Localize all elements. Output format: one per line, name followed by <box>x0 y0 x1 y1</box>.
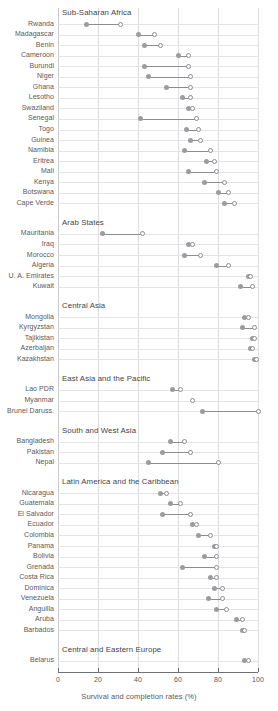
survival-rate-marker <box>200 409 205 414</box>
completion-rate-marker <box>250 284 255 289</box>
row-baseline <box>58 588 258 589</box>
country-label: Tajikistan <box>0 334 54 341</box>
survival-rate-marker <box>180 95 185 100</box>
completion-rate-marker <box>254 357 259 362</box>
x-axis-tick-label: 100 <box>243 676 273 683</box>
group-header: Latin America and the Caribbean <box>62 477 179 486</box>
value-connector <box>188 172 216 173</box>
plot-area: Sub-Saharan AfricaRwandaMadagascarBeninC… <box>0 0 278 711</box>
completion-rate-marker <box>140 231 145 236</box>
country-label: Kuwait <box>0 282 54 289</box>
row-baseline <box>58 56 258 57</box>
group-header: Arab States <box>62 218 104 227</box>
completion-rate-marker <box>226 190 231 195</box>
country-label: Belarus <box>0 656 54 663</box>
country-label: Brunei Daruss. <box>0 407 54 414</box>
survival-rate-marker <box>186 169 191 174</box>
x-axis-tick <box>178 668 179 672</box>
row-baseline <box>58 546 258 547</box>
country-label: Mali <box>0 167 54 174</box>
country-label: Grenada <box>0 563 54 570</box>
row-baseline <box>58 98 258 99</box>
completion-rate-marker <box>188 74 193 79</box>
x-axis-tick-label: 80 <box>203 676 233 683</box>
row-baseline <box>58 172 258 173</box>
country-label: Lao PDR <box>0 385 54 392</box>
row-baseline <box>58 349 258 350</box>
row-baseline <box>58 287 258 288</box>
country-label: Costa Rica <box>0 573 54 580</box>
country-label: Dominica <box>0 584 54 591</box>
survival-rate-marker <box>206 596 211 601</box>
country-label: Togo <box>0 125 54 132</box>
value-connector <box>202 411 258 412</box>
completion-rate-marker <box>118 22 123 27</box>
country-label: Azerbaijan <box>0 344 54 351</box>
country-label: Kazakhstan <box>0 355 54 362</box>
completion-rate-marker <box>232 201 237 206</box>
country-label: U. A. Emirates <box>0 272 54 279</box>
value-connector <box>162 514 190 515</box>
country-label: Madagascar <box>0 30 54 37</box>
x-axis-tick-label: 20 <box>83 676 113 683</box>
completion-rate-marker <box>190 398 195 403</box>
value-connector <box>148 463 218 464</box>
survival-completion-rates-chart: Sub-Saharan AfricaRwandaMadagascarBeninC… <box>0 0 278 711</box>
country-label: Venezuela <box>0 594 54 601</box>
country-label: Pakistan <box>0 448 54 455</box>
completion-rate-marker <box>240 617 245 622</box>
value-connector <box>162 452 190 453</box>
survival-rate-marker <box>204 159 209 164</box>
completion-rate-marker <box>208 148 213 153</box>
survival-rate-marker <box>214 607 219 612</box>
completion-rate-marker <box>186 64 191 69</box>
row-baseline <box>58 35 258 36</box>
country-label: Ecuador <box>0 520 54 527</box>
completion-rate-marker <box>246 658 251 663</box>
row-baseline <box>58 599 258 600</box>
x-axis-tick <box>58 668 59 672</box>
country-label: Morocco <box>0 251 54 258</box>
survival-rate-marker <box>216 190 221 195</box>
completion-rate-marker <box>226 263 231 268</box>
survival-rate-marker <box>214 263 219 268</box>
country-label: Aruba <box>0 615 54 622</box>
survival-rate-marker <box>146 460 151 465</box>
country-label: Guatemala <box>0 499 54 506</box>
completion-rate-marker <box>188 85 193 90</box>
completion-rate-marker <box>256 409 261 414</box>
row-baseline <box>58 630 258 631</box>
country-label: Kenya <box>0 178 54 185</box>
value-connector <box>182 567 216 568</box>
country-label: Nicaragua <box>0 489 54 496</box>
survival-rate-marker <box>196 533 201 538</box>
group-header: Central Asia <box>62 301 105 310</box>
row-baseline <box>58 567 258 568</box>
country-label: Algeria <box>0 261 54 268</box>
row-baseline <box>58 338 258 339</box>
row-baseline <box>58 535 258 536</box>
x-axis-tick <box>138 668 139 672</box>
row-baseline <box>58 182 258 183</box>
completion-rate-marker <box>214 554 219 559</box>
completion-rate-marker <box>224 607 229 612</box>
row-baseline <box>58 514 258 515</box>
country-label: Cameroon <box>0 51 54 58</box>
survival-rate-marker <box>142 64 147 69</box>
survival-rate-marker <box>100 231 105 236</box>
country-label: Lesotho <box>0 93 54 100</box>
survival-rate-marker <box>160 512 165 517</box>
completion-rate-marker <box>158 43 163 48</box>
x-axis-tick-label: 0 <box>43 676 73 683</box>
x-axis-tick-label: 60 <box>163 676 193 683</box>
completion-rate-marker <box>214 565 219 570</box>
survival-rate-marker <box>84 22 89 27</box>
country-label: Cape Verde <box>0 199 54 206</box>
country-label: El Salvador <box>0 510 54 517</box>
completion-rate-marker <box>190 106 195 111</box>
completion-rate-marker <box>194 116 199 121</box>
row-baseline <box>58 620 258 621</box>
value-connector <box>86 24 120 25</box>
row-baseline <box>58 151 258 152</box>
completion-rate-marker <box>182 439 187 444</box>
